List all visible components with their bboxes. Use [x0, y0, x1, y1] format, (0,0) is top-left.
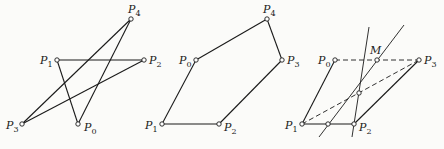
vertex-M [375, 58, 379, 62]
vertex-P2 [352, 122, 356, 126]
label-P2: P2 [148, 54, 162, 69]
label-P1: P1 [144, 119, 158, 134]
edge-P2-P3 [354, 60, 419, 124]
label-M: M [369, 44, 382, 57]
vertex-P0 [333, 58, 337, 62]
vertex-P2 [217, 122, 221, 126]
vertex-P0 [194, 58, 198, 62]
edge-P3-P2 [219, 60, 282, 124]
label-P0: P0 [178, 54, 192, 69]
edge-P1-P0 [57, 60, 78, 124]
label-P4: P4 [262, 3, 276, 18]
label-P1: P1 [39, 54, 53, 69]
vertex-P3 [20, 122, 24, 126]
fig3: P0P1P2P3M [284, 25, 437, 137]
label-P3: P3 [5, 119, 19, 134]
vertex-P1 [160, 122, 164, 126]
vertex-P1 [300, 122, 304, 126]
diagram-canvas: P0P1P2P3P4P0P1P2P3P4P0P1P2P3M [0, 0, 444, 149]
edge-P4-P3 [267, 19, 282, 60]
vertex-P3 [417, 58, 421, 62]
vertex-P1 [55, 58, 59, 62]
fig1: P0P1P2P3P4 [5, 3, 162, 136]
vertex-P4 [129, 17, 133, 21]
vertex-Q [357, 91, 361, 95]
label-P1: P1 [284, 119, 298, 134]
edge-P3-P4 [22, 19, 131, 124]
label-P4: P4 [127, 3, 141, 18]
fig2: P0P1P2P3P4 [144, 3, 300, 136]
vertex-P4 [265, 17, 269, 21]
vertex-P0 [76, 122, 80, 126]
label-P2: P2 [223, 121, 237, 136]
vertex-P2 [142, 58, 146, 62]
vertex-P3 [280, 58, 284, 62]
vertex-R [326, 122, 330, 126]
edge-P1-P0 [162, 60, 196, 124]
label-P2: P2 [358, 121, 372, 136]
edge-P0-P1 [302, 60, 335, 124]
label-P3: P3 [286, 54, 300, 69]
label-P0: P0 [83, 121, 97, 136]
label-P3: P3 [423, 54, 437, 69]
label-P0: P0 [317, 54, 331, 69]
edge-P0-P4 [196, 19, 267, 60]
